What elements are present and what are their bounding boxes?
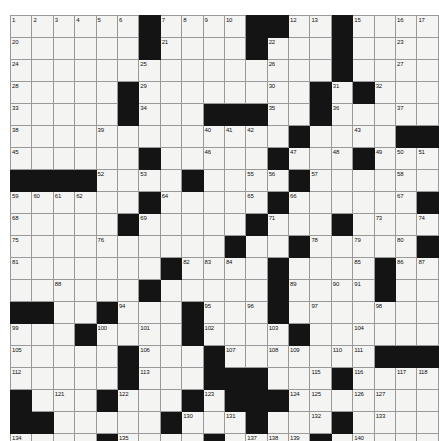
- crossword-cell[interactable]: [11, 280, 32, 302]
- crossword-cell[interactable]: [117, 192, 138, 214]
- crossword-cell[interactable]: [160, 148, 181, 170]
- crossword-cell[interactable]: [160, 280, 181, 302]
- crossword-cell[interactable]: 60: [32, 192, 53, 214]
- crossword-cell[interactable]: [353, 60, 374, 82]
- crossword-cell[interactable]: 4: [75, 16, 96, 38]
- crossword-cell[interactable]: 79: [353, 236, 374, 258]
- crossword-cell[interactable]: [331, 324, 352, 346]
- crossword-cell[interactable]: [53, 434, 74, 441]
- crossword-cell[interactable]: [417, 280, 439, 302]
- crossword-cell[interactable]: [32, 236, 53, 258]
- crossword-cell[interactable]: [396, 82, 417, 104]
- crossword-cell[interactable]: [289, 60, 310, 82]
- crossword-cell[interactable]: [353, 170, 374, 192]
- crossword-cell[interactable]: [310, 126, 331, 148]
- crossword-cell[interactable]: 84: [224, 258, 245, 280]
- crossword-cell[interactable]: [117, 280, 138, 302]
- crossword-cell[interactable]: [32, 148, 53, 170]
- crossword-cell[interactable]: [203, 236, 224, 258]
- crossword-cell[interactable]: [331, 302, 352, 324]
- crossword-cell[interactable]: [75, 302, 96, 324]
- crossword-cell[interactable]: [32, 390, 53, 412]
- crossword-cell[interactable]: [310, 214, 331, 236]
- crossword-cell[interactable]: [182, 82, 203, 104]
- crossword-cell[interactable]: [117, 412, 138, 434]
- crossword-cell[interactable]: [75, 214, 96, 236]
- crossword-cell[interactable]: [224, 60, 245, 82]
- crossword-cell[interactable]: 86: [396, 258, 417, 280]
- crossword-cell[interactable]: 116: [353, 368, 374, 390]
- crossword-cell[interactable]: [96, 104, 117, 126]
- crossword-cell[interactable]: [331, 192, 352, 214]
- crossword-cell[interactable]: [75, 434, 96, 441]
- crossword-cell[interactable]: 46: [203, 148, 224, 170]
- crossword-cell[interactable]: [75, 148, 96, 170]
- crossword-cell[interactable]: [417, 170, 439, 192]
- crossword-cell[interactable]: [310, 324, 331, 346]
- crossword-cell[interactable]: [182, 346, 203, 368]
- crossword-cell[interactable]: 30: [267, 82, 288, 104]
- crossword-cell[interactable]: [96, 258, 117, 280]
- crossword-cell[interactable]: [396, 302, 417, 324]
- crossword-cell[interactable]: [96, 368, 117, 390]
- crossword-cell[interactable]: 115: [310, 368, 331, 390]
- crossword-cell[interactable]: [160, 214, 181, 236]
- crossword-cell[interactable]: 9: [203, 16, 224, 38]
- crossword-cell[interactable]: 98: [374, 302, 395, 324]
- crossword-cell[interactable]: [53, 148, 74, 170]
- crossword-cell[interactable]: [374, 60, 395, 82]
- crossword-cell[interactable]: 140: [353, 434, 374, 441]
- crossword-cell[interactable]: [246, 346, 267, 368]
- crossword-cell[interactable]: 135: [117, 434, 138, 441]
- crossword-cell[interactable]: [182, 104, 203, 126]
- crossword-cell[interactable]: 105: [11, 346, 32, 368]
- crossword-cell[interactable]: 33: [11, 104, 32, 126]
- crossword-cell[interactable]: 97: [310, 302, 331, 324]
- crossword-cell[interactable]: 6: [117, 16, 138, 38]
- crossword-cell[interactable]: 62: [75, 192, 96, 214]
- crossword-cell[interactable]: 89: [289, 280, 310, 302]
- crossword-cell[interactable]: [117, 258, 138, 280]
- crossword-cell[interactable]: 96: [246, 302, 267, 324]
- crossword-cell[interactable]: 81: [11, 258, 32, 280]
- crossword-cell[interactable]: [53, 214, 74, 236]
- crossword-cell[interactable]: [224, 38, 245, 60]
- crossword-cell[interactable]: [160, 368, 181, 390]
- crossword-cell[interactable]: [182, 38, 203, 60]
- crossword-cell[interactable]: [139, 390, 160, 412]
- crossword-cell[interactable]: 78: [310, 236, 331, 258]
- crossword-cell[interactable]: [246, 82, 267, 104]
- crossword-cell[interactable]: [396, 390, 417, 412]
- crossword-cell[interactable]: [289, 258, 310, 280]
- crossword-cell[interactable]: [75, 280, 96, 302]
- crossword-cell[interactable]: [96, 60, 117, 82]
- crossword-cell[interactable]: [96, 82, 117, 104]
- crossword-cell[interactable]: [96, 346, 117, 368]
- crossword-cell[interactable]: [139, 126, 160, 148]
- crossword-cell[interactable]: 109: [289, 346, 310, 368]
- crossword-cell[interactable]: 71: [267, 214, 288, 236]
- crossword-cell[interactable]: 82: [182, 258, 203, 280]
- crossword-cell[interactable]: [224, 192, 245, 214]
- crossword-cell[interactable]: 106: [139, 346, 160, 368]
- crossword-cell[interactable]: [374, 170, 395, 192]
- crossword-cell[interactable]: 68: [11, 214, 32, 236]
- crossword-cell[interactable]: 111: [353, 346, 374, 368]
- crossword-cell[interactable]: [182, 236, 203, 258]
- crossword-cell[interactable]: 108: [267, 346, 288, 368]
- crossword-cell[interactable]: [160, 82, 181, 104]
- crossword-cell[interactable]: 90: [331, 280, 352, 302]
- crossword-cell[interactable]: [246, 60, 267, 82]
- crossword-cell[interactable]: [374, 434, 395, 441]
- crossword-cell[interactable]: 20: [11, 38, 32, 60]
- crossword-cell[interactable]: 27: [396, 60, 417, 82]
- crossword-cell[interactable]: 32: [374, 82, 395, 104]
- crossword-cell[interactable]: [182, 60, 203, 82]
- crossword-cell[interactable]: 83: [203, 258, 224, 280]
- crossword-cell[interactable]: 38: [11, 126, 32, 148]
- crossword-cell[interactable]: 56: [267, 170, 288, 192]
- crossword-cell[interactable]: 40: [203, 126, 224, 148]
- crossword-cell[interactable]: [117, 38, 138, 60]
- crossword-cell[interactable]: [53, 368, 74, 390]
- crossword-cell[interactable]: [32, 368, 53, 390]
